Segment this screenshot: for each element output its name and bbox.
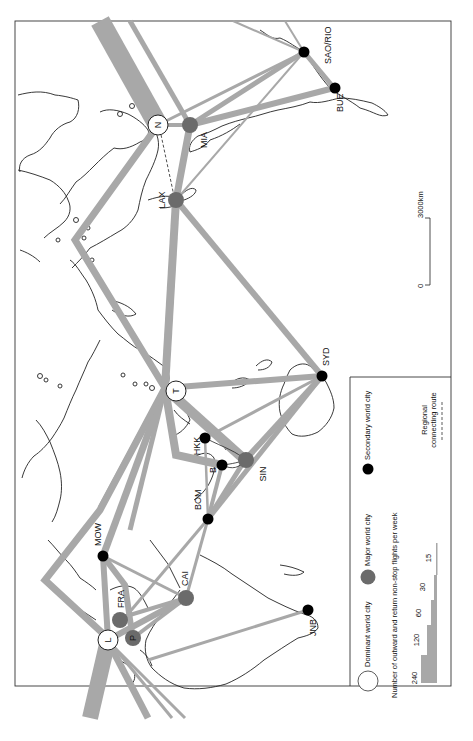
city-label: BOM	[193, 489, 203, 510]
city-N[interactable]: N	[148, 115, 168, 135]
city-label: SAO/RIO	[323, 26, 333, 64]
city-label: MOW	[93, 523, 103, 546]
step-30: 30	[418, 583, 427, 591]
legend-secondary-label: Secondary world city	[363, 391, 372, 460]
city-label: L	[103, 637, 113, 642]
step-120: 120	[412, 634, 421, 647]
major-city-symbol	[361, 570, 376, 585]
city-label: B	[208, 467, 218, 473]
city-label: P	[128, 635, 138, 641]
city-label: BUE	[335, 93, 345, 112]
secondary-city-symbol	[363, 464, 374, 475]
city-P[interactable]: P	[125, 630, 141, 646]
city-T[interactable]: T	[166, 381, 186, 401]
legend-regional-line2: connecting route	[429, 392, 438, 447]
scale-start-label: 0	[416, 284, 425, 288]
dominant-city-symbol	[358, 671, 378, 691]
city-label: CAI	[180, 571, 190, 586]
city-label: SYD	[321, 347, 331, 366]
city-label: JNB	[308, 619, 318, 636]
city-label: HKK	[192, 437, 202, 456]
step-240: 240	[410, 672, 419, 685]
city-label: FRA	[116, 590, 126, 608]
city-label: MIA	[199, 132, 209, 148]
legend-dominant-label: Dominant world city	[363, 601, 372, 667]
map-frame	[15, 21, 451, 686]
step-60: 60	[414, 609, 423, 617]
step-15: 15	[424, 554, 433, 562]
legend-major-label: Major world city	[363, 514, 372, 566]
scale-end-label: 3000km	[416, 191, 425, 218]
city-L[interactable]: L	[98, 630, 118, 650]
legend-regional-line1: Regional	[420, 405, 429, 435]
city-label: SIN	[258, 466, 268, 481]
legend-flights-title: Number of outward and return non-stop fl…	[390, 512, 399, 698]
city-label: T	[171, 388, 181, 394]
world-city-network-map: L N T P FRA CAI SIN LAX	[0, 0, 473, 741]
city-label: N	[153, 122, 163, 129]
city-label: LAX	[157, 191, 167, 208]
